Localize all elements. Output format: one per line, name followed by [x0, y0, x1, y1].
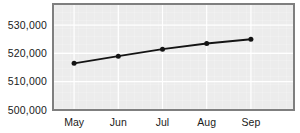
y-axis-label: 510,000: [0, 75, 47, 88]
data-point: [248, 37, 253, 42]
x-axis-label: Jul: [141, 116, 185, 129]
data-point: [116, 54, 121, 59]
data-point: [160, 47, 165, 52]
y-axis-label: 520,000: [0, 47, 47, 60]
plot-area: [52, 3, 295, 111]
data-point: [72, 61, 77, 66]
chart-canvas: [54, 5, 293, 109]
x-axis-label: Jun: [96, 116, 140, 129]
x-axis-label: Sep: [229, 116, 273, 129]
y-axis-label: 500,000: [0, 104, 47, 117]
y-axis-label: 530,000: [0, 19, 47, 32]
x-axis-label: May: [52, 116, 96, 129]
line-chart: 530,000520,000510,000500,000 MayJunJulAu…: [0, 0, 300, 133]
x-axis-label: Aug: [185, 116, 229, 129]
data-point: [204, 41, 209, 46]
